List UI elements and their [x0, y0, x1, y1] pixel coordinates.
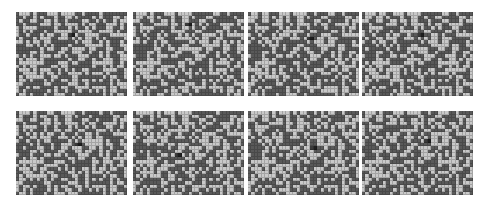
- grid-panel-1: [16, 12, 127, 96]
- wall-cell: [356, 192, 359, 196]
- wall-cell: [124, 192, 127, 196]
- grid-panel-3: [248, 12, 359, 96]
- grid-panel-5: [16, 111, 127, 195]
- grid-panel-6: [133, 111, 244, 195]
- wall-cell: [124, 93, 127, 97]
- grid-panel-8: [362, 111, 473, 195]
- grid-panel-2: [133, 12, 244, 96]
- grid-panel-7: [248, 111, 359, 195]
- wall-cell: [470, 93, 473, 97]
- wall-cell: [241, 93, 244, 97]
- grid-panel-4: [362, 12, 473, 96]
- wall-cell: [241, 192, 244, 196]
- open-cell: [356, 93, 359, 97]
- wall-cell: [470, 192, 473, 196]
